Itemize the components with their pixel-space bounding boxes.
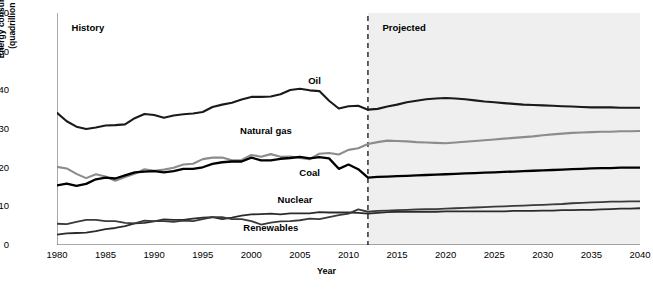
series-label-natural-gas: Natural gas <box>240 125 292 136</box>
series-label-nuclear: Nuclear <box>278 194 313 205</box>
x-axis-tick-label: 1985 <box>86 249 126 260</box>
y-axis-tick-label: 30 <box>0 123 9 134</box>
y-axis-tick-label: 0 <box>0 239 9 250</box>
series-label-renewables: Renewables <box>243 222 298 233</box>
y-axis-tick-label: 40 <box>0 84 9 95</box>
annotation-history: History <box>72 22 105 33</box>
x-axis-tick-label: 2015 <box>377 249 417 260</box>
x-axis-tick-label: 2025 <box>474 249 514 260</box>
y-axis-tick-label: 10 <box>0 200 9 211</box>
y-axis-tick-label: 60 <box>0 7 9 18</box>
y-axis-tick-label: 20 <box>0 162 9 173</box>
plot-area <box>57 13 640 245</box>
y-axis-tick-label: 50 <box>0 46 9 57</box>
x-axis-tick-label: 1995 <box>183 249 223 260</box>
x-axis-tick-label: 2005 <box>280 249 320 260</box>
energy-consumption-chart: Energy consumption (quadrillion Btu) 010… <box>0 0 653 293</box>
x-axis-tick-label: 2020 <box>426 249 466 260</box>
x-axis-title: Year <box>0 266 653 276</box>
annotation-projected: Projected <box>383 22 426 33</box>
x-axis-tick-label: 1980 <box>37 249 77 260</box>
x-axis-tick-label: 2030 <box>523 249 563 260</box>
series-label-coal: Coal <box>299 167 320 178</box>
x-axis-tick-label: 2040 <box>620 249 653 260</box>
series-label-oil: Oil <box>308 75 321 86</box>
x-axis-tick-label: 2010 <box>329 249 369 260</box>
x-axis-tick-label: 2000 <box>231 249 271 260</box>
x-axis-tick-label: 2035 <box>571 249 611 260</box>
chart-canvas <box>57 13 640 245</box>
x-axis-tick-label: 1990 <box>134 249 174 260</box>
